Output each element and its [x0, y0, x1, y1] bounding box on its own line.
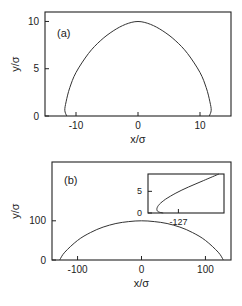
- x-tick-label: -10: [69, 120, 84, 131]
- y-tick-label: 0: [40, 255, 46, 266]
- axes-frame: [45, 12, 231, 116]
- y-axis-label: y/σ: [9, 203, 21, 219]
- y-tick-label: 10: [28, 16, 40, 27]
- y-tick-label: 5: [33, 63, 39, 74]
- panel-a: -100100510x/σy/σ(a): [9, 12, 231, 145]
- inset-plot: -12705: [137, 173, 224, 227]
- x-tick-label: -100: [68, 264, 88, 275]
- profile-curve: [65, 22, 211, 117]
- x-tick-label: 10: [194, 120, 206, 131]
- panel-b: -10001000100x/σy/σ(b)-12705: [9, 162, 231, 289]
- x-axis-label: x/σ: [134, 277, 150, 289]
- profile-curve: [60, 221, 224, 260]
- x-tick-label: 0: [135, 120, 141, 131]
- y-tick-label: 5: [137, 186, 142, 196]
- y-tick-label: 0: [33, 111, 39, 122]
- y-tick-label: 0: [137, 208, 142, 218]
- x-tick-label: 0: [139, 264, 145, 275]
- panel-label: (b): [64, 174, 77, 186]
- x-tick-label: -127: [169, 217, 187, 227]
- y-axis-label: y/σ: [9, 56, 21, 72]
- x-axis-label: x/σ: [130, 133, 146, 145]
- x-tick-label: 100: [197, 264, 214, 275]
- y-tick-label: 100: [29, 215, 46, 226]
- figure: -100100510x/σy/σ(a) -10001000100x/σy/σ(b…: [0, 0, 242, 306]
- panel-label: (a): [57, 27, 70, 39]
